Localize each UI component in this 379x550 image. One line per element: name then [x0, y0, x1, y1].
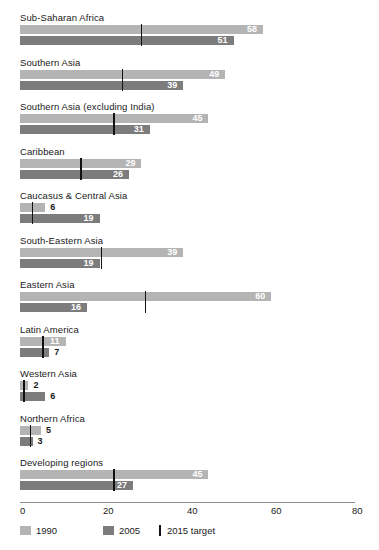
bar-row: 16 — [0, 303, 379, 312]
bar-row: 3 — [0, 437, 379, 446]
target-2015-tick — [113, 469, 115, 491]
legend-label-2015-target: 2015 target — [167, 525, 215, 536]
target-2015-tick — [145, 291, 147, 313]
x-axis-line — [20, 502, 355, 503]
plot-area: Sub-Saharan Africa5851Southern Asia4939S… — [0, 0, 379, 500]
bar-value-2005: 19 — [84, 258, 94, 269]
bar-value-1990: 5 — [46, 425, 51, 436]
target-2015-tick — [141, 24, 143, 46]
bar-row: 5 — [0, 426, 379, 435]
target-2015-tick — [113, 113, 115, 135]
category-label: Caribbean — [20, 146, 65, 157]
bar-group: Southern Asia4939 — [0, 57, 379, 91]
bar-value-2005: 39 — [167, 80, 177, 91]
bar-group: Sub-Saharan Africa5851 — [0, 12, 379, 46]
x-axis-tick-labels: 0 20 40 60 80 — [0, 505, 379, 519]
x-tick-80: 80 — [352, 505, 363, 517]
category-label: Caucasus & Central Asia — [20, 190, 127, 201]
bar-row: 2 — [0, 381, 379, 390]
bar-value-1990: 2 — [33, 380, 38, 391]
category-label: Latin America — [20, 324, 79, 335]
bar-value-1990: 39 — [167, 247, 177, 258]
bar-group: Western Asia26 — [0, 368, 379, 402]
bar-value-1990: 60 — [255, 291, 265, 302]
category-label: Sub-Saharan Africa — [20, 12, 104, 23]
bar-value-2005: 31 — [134, 124, 144, 135]
bar-row: 45 — [0, 470, 379, 479]
bar-group: Eastern Asia6016 — [0, 279, 379, 313]
target-2015-tick — [30, 425, 32, 447]
bar-row: 39 — [0, 248, 379, 257]
bar-group: Developing regions4527 — [0, 457, 379, 491]
bar-row: 58 — [0, 25, 379, 34]
category-label: Developing regions — [20, 457, 103, 468]
legend-item-2005: 2005 — [103, 524, 140, 536]
bar-value-2005: 3 — [38, 436, 43, 447]
chart-legend: 1990 2005 2015 target — [0, 524, 379, 540]
bar-value-2005: 7 — [54, 347, 59, 358]
legend-label-2005: 2005 — [119, 525, 140, 536]
category-label: Southern Asia — [20, 57, 80, 68]
bar-row: 26 — [0, 170, 379, 179]
bar-row: 51 — [0, 36, 379, 45]
legend-label-1990: 1990 — [36, 525, 57, 536]
category-label: South-Eastern Asia — [20, 235, 103, 246]
bar-value-1990: 45 — [192, 469, 202, 480]
bar-row: 6 — [0, 392, 379, 401]
bar-value-2005-bar — [20, 81, 183, 90]
bar-row: 11 — [0, 337, 379, 346]
x-tick-0: 0 — [20, 505, 25, 517]
bar-value-2005: 27 — [117, 480, 127, 491]
bar-value-2005-bar — [20, 36, 234, 45]
bar-value-2005-bar — [20, 348, 49, 357]
bar-value-1990: 11 — [50, 336, 60, 347]
legend-swatch-2005-icon — [103, 526, 114, 535]
legend-swatch-1990-icon — [20, 526, 31, 535]
category-label: Eastern Asia — [20, 279, 75, 290]
bar-value-1990: 29 — [125, 158, 135, 169]
bar-row: 19 — [0, 259, 379, 268]
bar-group: Southern Asia (excluding India)4531 — [0, 101, 379, 135]
bar-row: 39 — [0, 81, 379, 90]
bar-group: Northern Africa53 — [0, 413, 379, 447]
bar-group: Caucasus & Central Asia619 — [0, 190, 379, 224]
bar-value-2005: 51 — [218, 35, 228, 46]
bar-row: 19 — [0, 214, 379, 223]
bar-value-1990: 45 — [192, 113, 202, 124]
bar-value-2005: 16 — [71, 302, 81, 313]
bar-row: 29 — [0, 159, 379, 168]
bar-value-2005: 26 — [113, 169, 123, 180]
bar-row: 7 — [0, 348, 379, 357]
bar-row: 31 — [0, 125, 379, 134]
bar-group: Latin America117 — [0, 324, 379, 358]
legend-swatch-target-tick-icon — [159, 525, 161, 536]
category-label: Western Asia — [20, 368, 77, 379]
bar-chart: Sub-Saharan Africa5851Southern Asia4939S… — [0, 0, 379, 550]
target-2015-tick — [42, 336, 44, 358]
legend-item-2015-target: 2015 target — [155, 524, 215, 536]
bar-row: 60 — [0, 292, 379, 301]
bar-row: 6 — [0, 203, 379, 212]
bar-group: South-Eastern Asia3919 — [0, 235, 379, 269]
target-2015-tick — [101, 247, 103, 269]
target-2015-tick — [23, 380, 25, 402]
x-tick-60: 60 — [271, 505, 282, 517]
category-label: Northern Africa — [20, 413, 85, 424]
bar-value-2005: 19 — [84, 213, 94, 224]
bar-row: 27 — [0, 481, 379, 490]
bar-row: 45 — [0, 114, 379, 123]
category-label: Southern Asia (excluding India) — [20, 101, 155, 112]
bar-value-2005-bar — [20, 125, 150, 134]
target-2015-tick — [122, 69, 124, 91]
bar-value-1990: 6 — [50, 202, 55, 213]
x-tick-20: 20 — [103, 505, 114, 517]
x-tick-40: 40 — [187, 505, 198, 517]
bar-value-1990: 49 — [209, 69, 219, 80]
target-2015-tick — [80, 158, 82, 180]
target-2015-tick — [32, 202, 34, 224]
bar-value-1990: 58 — [247, 24, 257, 35]
bar-group: Caribbean2926 — [0, 146, 379, 180]
bar-value-2005: 6 — [50, 391, 55, 402]
legend-item-1990: 1990 — [20, 524, 57, 536]
bar-row: 49 — [0, 70, 379, 79]
